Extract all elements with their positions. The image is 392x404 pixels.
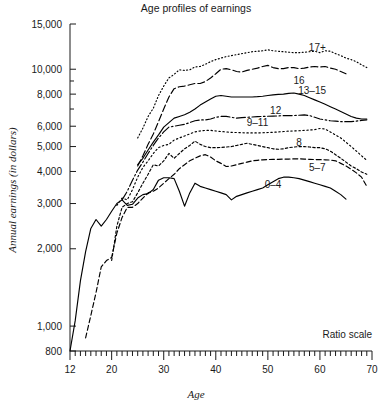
- x-tick-label: 50: [262, 364, 274, 375]
- series-label-12: 12: [270, 105, 282, 116]
- y-tick-label: 8,000: [37, 89, 62, 100]
- series-label-8: 8: [296, 137, 302, 148]
- x-tick-label: 20: [106, 364, 118, 375]
- series-label-5-7: 5–7: [309, 162, 326, 173]
- y-tick-label: 10,000: [31, 64, 62, 75]
- series-line-13-15: [138, 93, 367, 165]
- series-label-0-4: 0–4: [265, 179, 282, 190]
- series-label-9-11: 9–11: [247, 117, 269, 128]
- y-tick-label: 6,000: [37, 121, 62, 132]
- series-label-13-15: 13–15: [298, 85, 326, 96]
- chart-title: Age profiles of earnings: [141, 2, 251, 14]
- y-axis: 8001,0002,0003,0004,0005,0006,0008,00010…: [31, 19, 76, 357]
- series-line-16: [138, 65, 346, 166]
- y-tick-label: 800: [45, 346, 62, 357]
- y-tick-label: 4,000: [37, 166, 62, 177]
- y-tick-label: 5,000: [37, 141, 62, 152]
- series-line-12: [122, 115, 367, 200]
- x-tick-label: 60: [314, 364, 326, 375]
- x-tick-label: 70: [366, 364, 378, 375]
- x-tick-label: 40: [210, 364, 222, 375]
- x-axis-title: Age: [186, 388, 204, 400]
- x-axis: 12203040506070: [64, 351, 378, 375]
- age-earnings-line-chart: Age profiles of earnings Annual earnings…: [0, 0, 392, 404]
- series-label-17+: 17+: [309, 42, 326, 53]
- y-tick-label: 15,000: [31, 19, 62, 30]
- y-tick-label: 1,000: [37, 321, 62, 332]
- x-tick-label: 12: [64, 364, 76, 375]
- chart-container: Age profiles of earnings Annual earnings…: [0, 0, 392, 404]
- y-tick-label: 3,000: [37, 198, 62, 209]
- y-tick-label: 2,000: [37, 243, 62, 254]
- y-axis-title: Annual earnings (in dollars): [6, 127, 19, 254]
- series-line-5-7: [86, 155, 367, 338]
- ratio-scale-note: Ratio scale: [323, 329, 373, 340]
- x-tick-label: 30: [158, 364, 170, 375]
- series-line-0-4: [70, 177, 346, 351]
